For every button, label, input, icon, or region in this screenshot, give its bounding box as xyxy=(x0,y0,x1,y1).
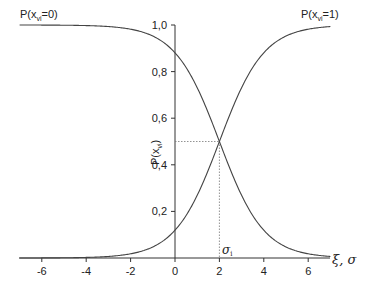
axes xyxy=(19,25,330,258)
x-tick-label: 2 xyxy=(216,265,222,277)
y-tick-label: 0,6 xyxy=(152,112,167,124)
x-tick-label: -4 xyxy=(81,265,91,277)
x-tick-label: -2 xyxy=(126,265,136,277)
series-label-p0: P(xvi=0) xyxy=(20,8,58,22)
x-axis-label: ξ, σ xyxy=(332,252,357,267)
y-tick-label: 0,8 xyxy=(152,66,167,78)
y-tick-label: 1,0 xyxy=(152,19,167,31)
tick-labels: -6-4-202460,20,40,60,81,0 xyxy=(37,19,311,277)
sigmoid-chart: -6-4-202460,20,40,60,81,0 P(xvi=0) P(xvi… xyxy=(0,0,370,297)
y-tick-label: 0,2 xyxy=(152,205,167,217)
x-tick-label: 0 xyxy=(172,265,178,277)
sigma-i-annotation: σi xyxy=(222,243,233,258)
x-tick-label: 6 xyxy=(305,265,311,277)
series-label-p1: P(xvi=1) xyxy=(301,8,339,22)
x-tick-label: 4 xyxy=(261,265,267,277)
y-axis-label: P(xvi) xyxy=(149,140,163,165)
x-tick-label: -6 xyxy=(37,265,47,277)
